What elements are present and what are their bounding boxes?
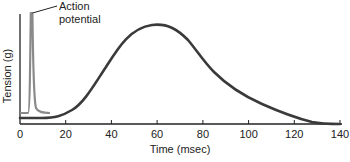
y-axis-label: Tension (g) <box>1 49 13 103</box>
x-tick-label: 40 <box>105 128 117 140</box>
x-tick-label: 80 <box>197 128 209 140</box>
annotation-line-2: potential <box>59 13 101 25</box>
x-tick-label: 120 <box>285 128 303 140</box>
x-tick-label: 20 <box>60 128 72 140</box>
annotation-leader-line <box>33 6 58 13</box>
annotation-line-1: Action <box>59 0 90 12</box>
twitch-chart: 0 20 40 60 80 100 120 140 Time (msec) Te… <box>0 0 350 162</box>
x-tick-label: 100 <box>239 128 257 140</box>
x-axis-label: Time (msec) <box>150 143 211 155</box>
tension-curve <box>20 25 340 124</box>
x-tick-label: 0 <box>17 128 23 140</box>
x-tick-label: 140 <box>331 128 349 140</box>
action-potential-curve <box>20 13 50 113</box>
x-tick-label: 60 <box>151 128 163 140</box>
